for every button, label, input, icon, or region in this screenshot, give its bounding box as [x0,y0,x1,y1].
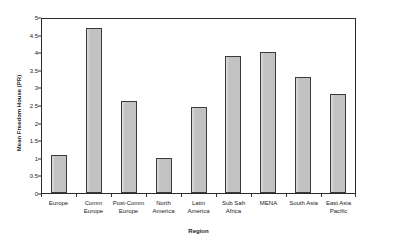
x-axis-tick-mark [146,194,147,197]
x-axis-category-label: East AsiaPacific [321,199,356,215]
bar [51,155,67,193]
bar [260,52,276,193]
y-axis-tick-mark [38,18,41,19]
x-axis-category-label-line: Pacific [322,207,355,215]
bar [86,28,102,193]
x-axis-category-label-line: East Asia [322,199,355,207]
x-axis-category-label-line: America [147,207,180,215]
x-axis-category-label-line: Europe [77,207,110,215]
x-axis-category-label: CommEurope [76,199,111,215]
bar [156,158,172,193]
x-axis-category-label-line: MENA [252,199,285,207]
bar-slot [146,19,181,193]
x-axis-category-label-line: Post-Comm [112,199,145,207]
bar-chart: Mean Freedom House (PR) 00.511.522.533.5… [0,0,400,252]
bar-slot [320,19,355,193]
x-axis-category-label: LatinAmerica [181,199,216,215]
x-axis-category-label: Sub SahAfrica [216,199,251,215]
bar-slot [77,19,112,193]
y-axis-tick-label: 4 [20,50,38,56]
plot-area [41,18,356,194]
x-axis-category-label-line: Europe [112,207,145,215]
x-axis-tick-marks [41,194,356,198]
y-axis-tick-label: 3.5 [20,68,38,74]
bar [191,107,207,193]
bar-slot [285,19,320,193]
x-axis-category-label-line: South Asia [287,199,320,207]
x-axis-tick-mark [321,194,322,197]
bar [121,101,137,193]
bar-slot [42,19,77,193]
y-axis-tick-label: 0.5 [20,173,38,179]
x-axis-category-label-line: Sub Sah [217,199,250,207]
bar-slot [112,19,147,193]
x-axis-tick-mark [41,194,42,197]
x-axis-tick-mark [286,194,287,197]
y-axis-tick-label: 2 [20,121,38,127]
x-axis-category-label-line: Latin [182,199,215,207]
bar [295,77,311,193]
x-axis-tick-mark [355,194,356,197]
y-axis-tick-label: 1 [20,156,38,162]
y-axis-tick-mark [38,194,41,195]
x-axis-tick-mark [76,194,77,197]
bar-slot [251,19,286,193]
x-axis-tick-mark [181,194,182,197]
x-axis-category-label-line: Comm [77,199,110,207]
x-axis-tick-mark [216,194,217,197]
x-axis-tick-mark [111,194,112,197]
x-axis-category-label: South Asia [286,199,321,215]
bar-slot [181,19,216,193]
bars-layer [42,19,355,193]
y-axis-tick-mark [38,53,41,54]
x-axis-category-label: NorthAmerica [146,199,181,215]
bar-slot [216,19,251,193]
x-axis-category-label: MENA [251,199,286,215]
x-axis-category-label-line: America [182,207,215,215]
bar [225,56,241,193]
bar [330,94,346,193]
y-axis-tick-label: 3 [20,85,38,91]
x-axis-category-label: Post-CommEurope [111,199,146,215]
y-axis-tick-mark [38,106,41,107]
y-axis-tick-label: 0 [20,191,38,197]
x-axis-title: Region [41,228,356,234]
x-axis-category-label-line: North [147,199,180,207]
x-axis-tick-mark [251,194,252,197]
y-axis-tick-mark [38,141,41,142]
y-axis-tick-label: 4.5 [20,33,38,39]
y-axis-tick-labels: 00.511.522.533.544.55 [20,18,38,194]
y-axis-tick-mark [38,70,41,71]
y-axis-tick-label: 5 [20,15,38,21]
y-axis-tick-label: 2.5 [20,103,38,109]
y-axis-tick-mark [38,88,41,89]
y-axis-tick-mark [38,35,41,36]
y-axis-tick-label: 1.5 [20,138,38,144]
x-axis-category-label: Europe [41,199,76,215]
y-axis-tick-mark [38,158,41,159]
x-axis-category-labels: EuropeCommEuropePost-CommEuropeNorthAmer… [41,199,356,215]
y-axis-tick-mark [38,176,41,177]
x-axis-category-label-line: Europe [42,199,75,207]
x-axis-category-label-line: Africa [217,207,250,215]
y-axis-tick-mark [38,123,41,124]
